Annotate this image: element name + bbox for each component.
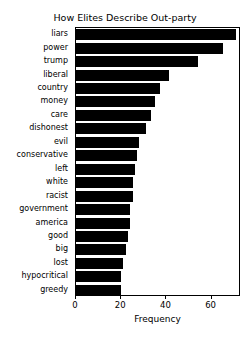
bar (76, 177, 133, 188)
bar (76, 83, 160, 94)
y-tick-label: good (48, 231, 68, 240)
bars-layer (76, 28, 239, 295)
bar (76, 244, 126, 255)
y-tick-label: white (46, 177, 68, 186)
bar (76, 150, 137, 161)
x-axis-ticks: 0204060 (75, 296, 240, 312)
y-tick-label: lost (54, 258, 68, 267)
bar (76, 56, 198, 67)
x-tick-mark (120, 296, 121, 299)
y-tick-label: trump (44, 56, 68, 65)
y-tick-label: power (43, 43, 68, 52)
y-tick-label: dishonest (29, 123, 68, 132)
bar (76, 204, 130, 215)
bar (76, 164, 135, 175)
bar (76, 96, 155, 107)
y-tick-label: government (19, 204, 68, 213)
y-tick-label: america (36, 218, 68, 227)
bar (76, 123, 146, 134)
x-tick-label: 0 (72, 300, 77, 310)
y-tick-label: big (56, 244, 68, 253)
y-tick-label: hypocritical (21, 271, 68, 280)
y-tick-label: evil (54, 137, 68, 146)
y-tick-label: liberal (43, 70, 68, 79)
bar (76, 70, 169, 81)
y-tick-label: conservative (17, 150, 68, 159)
bar (76, 218, 130, 229)
y-axis-labels: liarspowertrumpliberalcountrymoneycaredi… (0, 27, 72, 296)
y-tick-label: racist (46, 191, 68, 200)
chart-figure: How Elites Describe Out-party liarspower… (0, 0, 250, 347)
y-tick-label: liars (51, 29, 68, 38)
x-tick-label: 40 (160, 300, 171, 310)
bar (76, 43, 223, 54)
bar (76, 231, 128, 242)
x-tick-label: 60 (205, 300, 216, 310)
x-tick-label: 20 (115, 300, 126, 310)
bar (76, 110, 151, 121)
bar (76, 271, 121, 282)
y-tick-label: left (55, 164, 68, 173)
x-tick-mark (165, 296, 166, 299)
bar (76, 191, 133, 202)
bar (76, 29, 236, 40)
chart-title: How Elites Describe Out-party (0, 12, 250, 23)
y-tick-label: greedy (40, 285, 68, 294)
y-tick-label: country (37, 83, 68, 92)
y-tick-label: care (51, 110, 68, 119)
y-tick-label: money (41, 96, 68, 105)
x-tick-mark (211, 296, 212, 299)
x-axis-title: Frequency (75, 314, 240, 325)
plot-area (75, 27, 240, 296)
bar (76, 137, 139, 148)
bar (76, 258, 123, 269)
x-tick-mark (75, 296, 76, 299)
bar (76, 285, 121, 296)
